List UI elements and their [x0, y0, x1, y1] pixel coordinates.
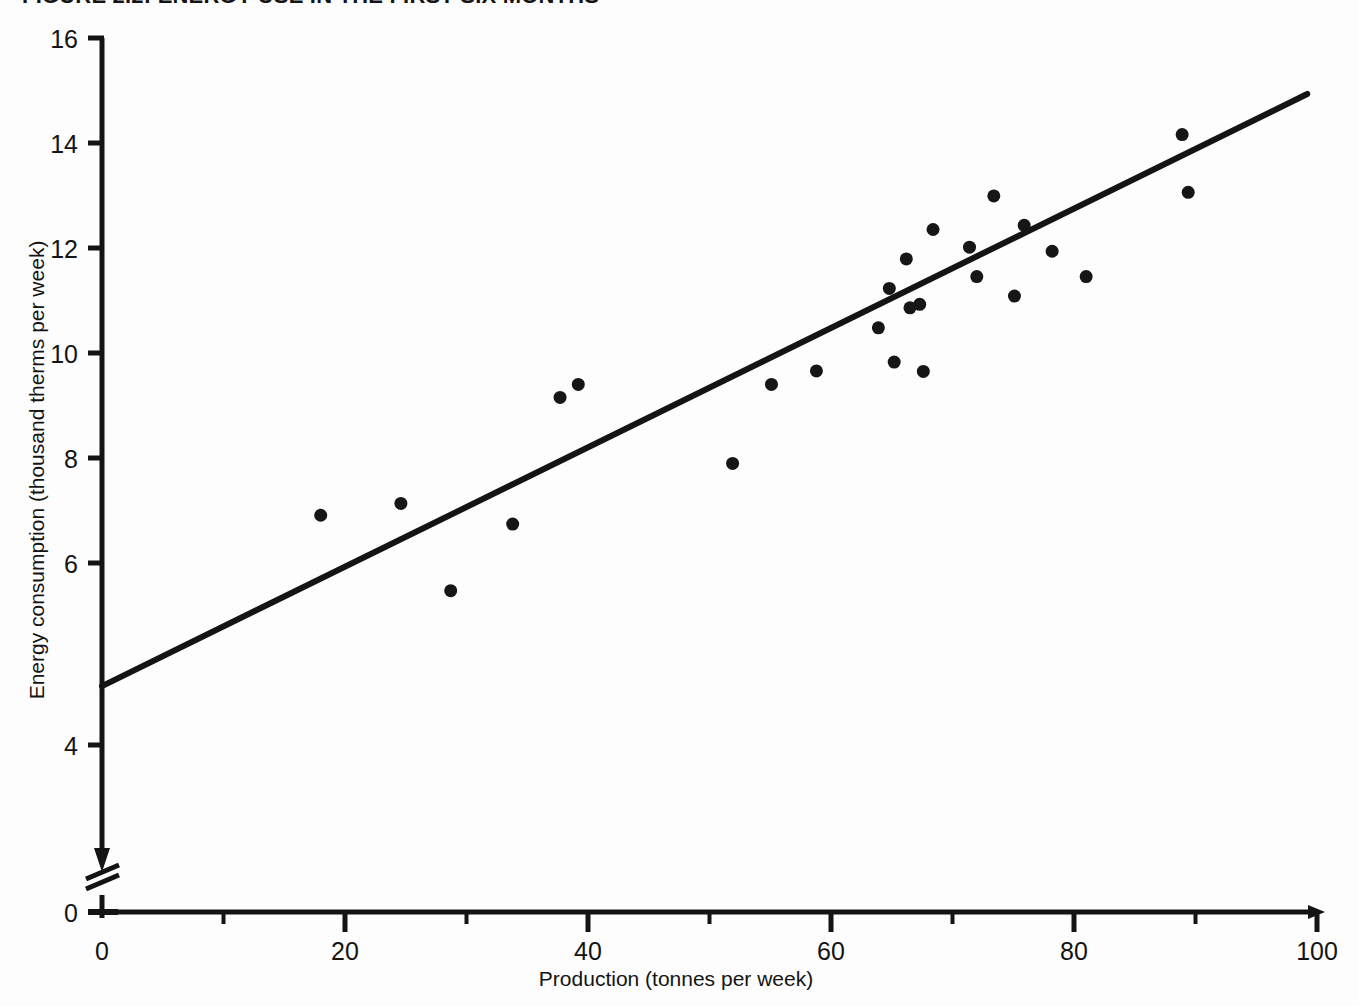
fit-line-group	[102, 94, 1307, 686]
x-tick-label-20: 20	[331, 937, 359, 965]
y-tick-label-16: 16	[50, 25, 78, 53]
x-tick-labels: 0 20 40 60 80 100	[95, 937, 1338, 965]
x-tick-label-100: 100	[1296, 937, 1338, 965]
y-axis-title: Energy consumption (thousand therms per …	[25, 241, 48, 700]
data-point	[1182, 186, 1195, 199]
data-point	[900, 252, 913, 265]
data-point	[394, 497, 407, 510]
y-tick-label-6: 6	[64, 550, 78, 578]
data-point	[572, 378, 585, 391]
data-point	[765, 378, 778, 391]
data-point	[506, 518, 519, 531]
data-point	[883, 282, 896, 295]
data-point	[1176, 128, 1189, 141]
y-tick-label-8: 8	[64, 445, 78, 473]
scatter-plot: 16 14 12 10 8 6 4 0 0 20	[0, 0, 1359, 1006]
data-point	[1018, 219, 1031, 232]
data-point	[810, 364, 823, 377]
data-point	[987, 189, 1000, 202]
x-tick-marks-major	[345, 912, 1317, 932]
data-point	[1046, 245, 1059, 258]
regression-line	[102, 94, 1307, 686]
x-tick-label-0: 0	[95, 937, 109, 965]
data-point	[872, 321, 885, 334]
data-point	[970, 270, 983, 283]
data-point	[726, 457, 739, 470]
data-point	[1080, 270, 1093, 283]
y-tick-label-14: 14	[50, 130, 78, 158]
y-tick-label-12: 12	[50, 235, 78, 263]
y-tick-label-4: 4	[64, 732, 78, 760]
data-point	[888, 356, 901, 369]
y-axis-group	[94, 38, 110, 918]
data-point	[917, 365, 930, 378]
y-tick-labels: 16 14 12 10 8 6 4 0	[50, 25, 78, 927]
y-tick-label-0: 0	[64, 899, 78, 927]
x-tick-label-80: 80	[1060, 937, 1088, 965]
x-tick-label-40: 40	[574, 937, 602, 965]
data-point	[927, 223, 940, 236]
y-tick-label-10: 10	[50, 340, 78, 368]
data-point	[444, 584, 457, 597]
x-axis-title: Production (tonnes per week)	[539, 967, 813, 990]
data-point	[554, 391, 567, 404]
figure-container: FIGURE 2.2: ENERGY USE IN THE FIRST SIX …	[0, 0, 1359, 1006]
data-point	[1008, 290, 1021, 303]
data-point	[314, 509, 327, 522]
x-axis-group	[102, 905, 1325, 919]
data-point	[913, 298, 926, 311]
data-point	[963, 241, 976, 254]
x-tick-label-60: 60	[817, 937, 845, 965]
